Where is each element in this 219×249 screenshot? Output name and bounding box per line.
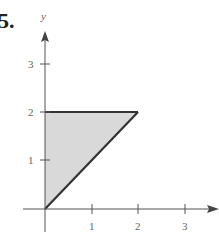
x-tick-label-1: 1 xyxy=(89,220,95,232)
y-tick-label-2: 2 xyxy=(28,106,34,118)
x-tick-label-2: 2 xyxy=(135,220,141,232)
y-tick-label-3: 3 xyxy=(28,58,34,70)
chart: 1 2 3 1 2 3 y xyxy=(0,0,219,249)
y-axis-label: y xyxy=(40,10,46,22)
y-tick-label-1: 1 xyxy=(28,154,34,166)
x-tick-label-3: 3 xyxy=(182,220,188,232)
